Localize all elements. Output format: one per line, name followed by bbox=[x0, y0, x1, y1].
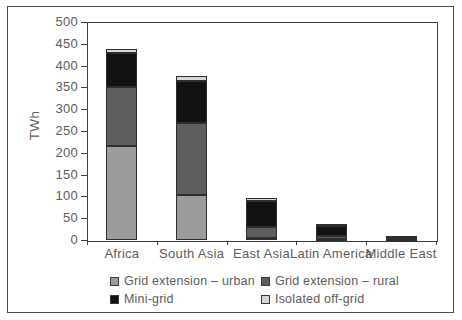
bar-segment bbox=[176, 123, 207, 195]
y-tick-mark bbox=[81, 87, 87, 88]
bar-segment bbox=[316, 226, 347, 235]
legend-swatch bbox=[110, 277, 119, 286]
bar-segment bbox=[316, 224, 347, 227]
bar-segment bbox=[316, 236, 347, 239]
y-tick-label: 500 bbox=[36, 15, 78, 29]
y-tick-label: 450 bbox=[36, 37, 78, 51]
y-tick-mark bbox=[81, 66, 87, 67]
legend-swatch bbox=[261, 277, 270, 286]
legend-item: Grid extension – urban bbox=[110, 274, 261, 288]
bar-segment bbox=[246, 227, 277, 238]
y-tick-mark bbox=[81, 44, 87, 45]
bar-segment bbox=[386, 238, 417, 240]
bar-segment bbox=[246, 201, 277, 227]
y-tick-label: 350 bbox=[36, 80, 78, 94]
bar-segment bbox=[106, 87, 137, 146]
bar-segment bbox=[106, 146, 137, 240]
y-tick-mark bbox=[81, 218, 87, 219]
bar-segment bbox=[176, 76, 207, 81]
legend-swatch bbox=[261, 295, 270, 304]
legend-swatch bbox=[110, 295, 119, 304]
y-tick-mark bbox=[81, 131, 87, 132]
x-tick-mark bbox=[436, 241, 437, 245]
bar-segment bbox=[316, 239, 347, 241]
y-tick-mark bbox=[81, 175, 87, 176]
x-category-label: Middle East bbox=[356, 247, 446, 261]
bar-segment bbox=[246, 238, 277, 240]
legend-item: Mini-grid bbox=[110, 292, 261, 306]
bar-segment bbox=[176, 195, 207, 240]
y-tick-mark bbox=[81, 196, 87, 197]
bar-segment bbox=[176, 81, 207, 123]
x-tick-mark bbox=[296, 241, 297, 245]
y-tick-label: 400 bbox=[36, 59, 78, 73]
bar-segment bbox=[106, 49, 137, 53]
y-tick-mark bbox=[81, 22, 87, 23]
legend-label: Grid extension – urban bbox=[124, 274, 255, 288]
x-tick-mark bbox=[157, 241, 158, 245]
y-tick-label: 50 bbox=[36, 211, 78, 225]
legend-item: Isolated off-grid bbox=[261, 292, 399, 306]
y-tick-label: 200 bbox=[36, 146, 78, 160]
y-tick-mark bbox=[81, 153, 87, 154]
y-tick-label: 0 bbox=[36, 233, 78, 247]
legend-label: Mini-grid bbox=[124, 292, 174, 306]
chart-figure: { "figure": { "background": "#ffffff", "… bbox=[0, 0, 462, 320]
legend-item: Grid extension – rural bbox=[261, 274, 399, 288]
y-tick-mark bbox=[81, 109, 87, 110]
y-tick-label: 300 bbox=[36, 102, 78, 116]
legend-label: Isolated off-grid bbox=[275, 292, 364, 306]
y-tick-label: 150 bbox=[36, 168, 78, 182]
x-tick-mark bbox=[87, 241, 88, 245]
y-tick-label: 100 bbox=[36, 189, 78, 203]
legend: Grid extension – urbanGrid extension – r… bbox=[110, 274, 399, 306]
bar-segment bbox=[386, 236, 417, 238]
bar-segment bbox=[106, 53, 137, 87]
x-tick-mark bbox=[227, 241, 228, 245]
x-tick-mark bbox=[366, 241, 367, 245]
y-tick-label: 250 bbox=[36, 124, 78, 138]
bar-segment bbox=[246, 198, 277, 201]
legend-label: Grid extension – rural bbox=[275, 274, 399, 288]
